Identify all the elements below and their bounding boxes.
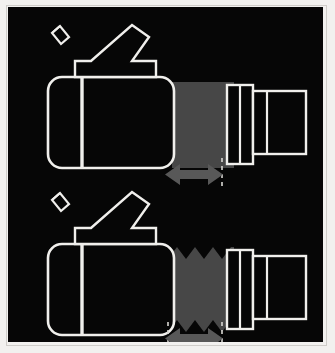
bellows-smooth: [172, 82, 234, 168]
lens-barrel-outer: [253, 256, 306, 319]
viewfinder-arm: [75, 25, 156, 77]
travel-arrow: [165, 328, 223, 342]
panel-top: [48, 25, 306, 189]
camera-lens-extension-diagram: [8, 7, 323, 342]
bellows-pleated: [168, 247, 234, 332]
lens-barrel-outer: [253, 91, 306, 154]
camera-body: [48, 244, 174, 335]
camera-body: [48, 77, 174, 168]
viewfinder-arm: [75, 192, 156, 244]
figure-page: [0, 0, 335, 353]
figure-canvas: [8, 7, 323, 342]
eyepiece-icon: [52, 26, 69, 44]
eyepiece-icon: [52, 193, 69, 211]
panel-bottom: [48, 192, 306, 342]
